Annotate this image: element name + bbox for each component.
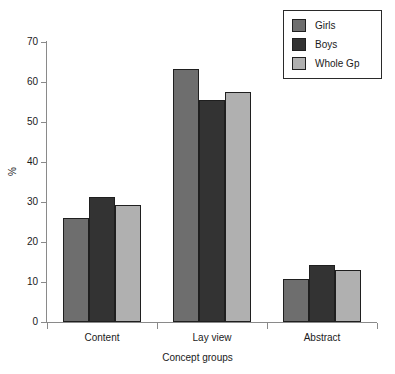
y-axis-tick: [41, 242, 46, 243]
legend-item-label: Boys: [315, 39, 337, 50]
legend-item-boys[interactable]: Boys: [292, 36, 374, 53]
y-axis-title: %: [8, 167, 18, 176]
legend-swatch-icon: [292, 38, 306, 51]
bar-abstract-whole-gp: [335, 270, 361, 322]
x-axis-category-label: Lay view: [157, 332, 267, 343]
legend-item-label: Girls: [315, 20, 336, 31]
bar-abstract-boys: [309, 265, 335, 322]
legend-item-whole-gp[interactable]: Whole Gp: [292, 55, 374, 72]
plot-area: [47, 42, 377, 322]
y-axis-tick: [41, 282, 46, 283]
y-axis-tick-label: 70: [0, 37, 38, 47]
bar-lay-view-whole-gp: [225, 92, 251, 322]
legend-item-girls[interactable]: Girls: [292, 17, 374, 34]
bar-chart-figure: 010203040506070 % ContentLay viewAbstrac…: [0, 0, 395, 374]
y-axis-tick-label: 30: [0, 197, 38, 207]
bar-lay-view-boys: [199, 100, 225, 322]
bar-abstract-girls: [283, 279, 309, 322]
x-axis-tick: [377, 323, 378, 329]
x-axis-category-label: Content: [47, 332, 157, 343]
bar-content-girls: [63, 218, 89, 322]
bar-lay-view-girls: [173, 69, 199, 322]
x-axis-title: Concept groups: [0, 352, 395, 363]
legend-swatch-icon: [292, 19, 306, 32]
y-axis-tick-label: 40: [0, 157, 38, 167]
y-axis-tick-label: 50: [0, 117, 38, 127]
y-axis-tick-label: 10: [0, 277, 38, 287]
bar-content-whole-gp: [115, 205, 141, 322]
bar-content-boys: [89, 197, 115, 322]
legend-item-label: Whole Gp: [315, 58, 359, 69]
y-axis-tick-label: 60: [0, 77, 38, 87]
legend-swatch-icon: [292, 57, 306, 70]
y-axis-tick: [41, 122, 46, 123]
x-axis-tick: [47, 323, 48, 329]
y-axis-tick: [41, 162, 46, 163]
legend: GirlsBoysWhole Gp: [283, 10, 382, 79]
y-axis-tick: [41, 82, 46, 83]
y-axis-tick-label: 0: [0, 317, 38, 327]
x-axis-line: [46, 322, 377, 323]
x-axis-category-label: Abstract: [267, 332, 377, 343]
y-axis-tick: [41, 322, 46, 323]
y-axis-tick: [41, 42, 46, 43]
x-axis-tick: [157, 323, 158, 329]
y-axis-tick-label: 20: [0, 237, 38, 247]
x-axis-tick: [267, 323, 268, 329]
y-axis-tick: [41, 202, 46, 203]
